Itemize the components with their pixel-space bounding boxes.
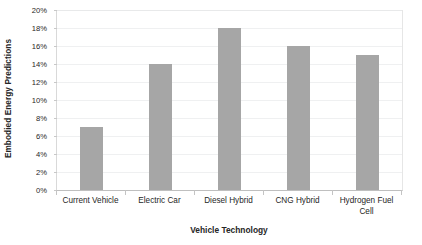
x-axis-tick-marks bbox=[56, 190, 402, 195]
y-axis-title: Embodied Energy Predictions bbox=[0, 0, 18, 196]
y-axis-tick-label: 6% bbox=[36, 132, 47, 141]
y-axis-tick-label: 10% bbox=[32, 96, 47, 105]
bar bbox=[287, 46, 311, 190]
bar-series bbox=[57, 10, 402, 190]
x-axis-tick-label: Current Vehicle bbox=[56, 196, 125, 207]
x-axis-tick-mark bbox=[401, 190, 402, 195]
y-axis-tick-label: 18% bbox=[32, 24, 47, 33]
x-axis-tick-labels: Current VehicleElectric CarDiesel Hybrid… bbox=[56, 196, 402, 226]
bar bbox=[149, 64, 173, 190]
y-axis-tick-label: 12% bbox=[32, 78, 47, 87]
bar bbox=[356, 55, 380, 190]
x-axis-tick-mark bbox=[125, 190, 126, 195]
bar bbox=[218, 28, 242, 190]
y-axis-tick-label: 14% bbox=[32, 60, 47, 69]
x-axis-tick-mark bbox=[56, 190, 57, 195]
x-axis-tick-label: Hydrogen Fuel Cell bbox=[332, 196, 401, 217]
x-axis-title: Vehicle Technology bbox=[56, 225, 402, 235]
plot-area bbox=[56, 10, 403, 191]
y-axis-tick-label: 8% bbox=[36, 114, 47, 123]
y-axis-tick-label: 0% bbox=[36, 186, 47, 195]
x-axis-tick-mark bbox=[194, 190, 195, 195]
bar-chart: Embodied Energy Predictions 0%2%4%6%8%10… bbox=[0, 0, 422, 245]
y-axis-tick-label: 20% bbox=[32, 6, 47, 15]
x-axis-tick-mark bbox=[332, 190, 333, 195]
y-axis-tick-label: 4% bbox=[36, 150, 47, 159]
bar bbox=[80, 127, 104, 190]
x-axis-tick-label: CNG Hybrid bbox=[263, 196, 332, 207]
x-axis-tick-label: Electric Car bbox=[125, 196, 194, 207]
y-axis-tick-label: 16% bbox=[32, 42, 47, 51]
y-axis-tick-label: 2% bbox=[36, 168, 47, 177]
y-axis-title-label: Embodied Energy Predictions bbox=[5, 38, 14, 157]
x-axis-tick-mark bbox=[263, 190, 264, 195]
y-axis-tick-labels: 0%2%4%6%8%10%12%14%16%18%20% bbox=[18, 10, 50, 190]
x-axis-tick-label: Diesel Hybrid bbox=[194, 196, 263, 207]
